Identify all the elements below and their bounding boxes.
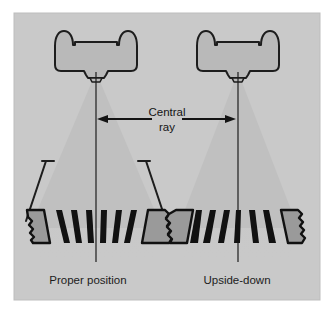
right-grid-end-left: [166, 210, 193, 243]
left-caption: Proper position: [49, 274, 126, 286]
central-ray-label-line2: ray: [159, 121, 175, 133]
grid-strip: [100, 210, 107, 243]
central-ray-label-line1: Central: [148, 106, 185, 118]
figure-root: Proper position: [0, 0, 333, 314]
right-caption: Upside-down: [203, 274, 270, 286]
grid-alignment-diagram: Proper position: [0, 0, 333, 314]
